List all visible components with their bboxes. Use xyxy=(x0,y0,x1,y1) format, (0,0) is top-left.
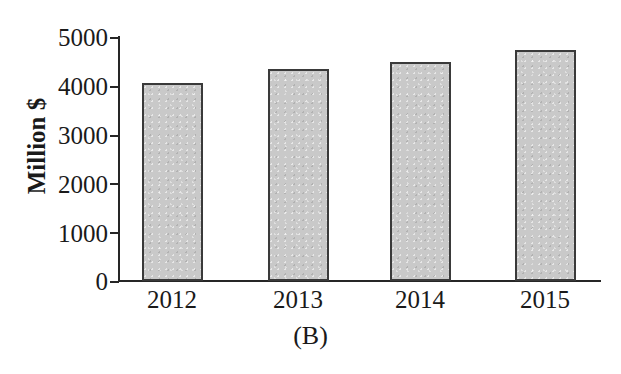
bar-chart-figure: Million $ 5000 4000 3000 2000 1000 0 201… xyxy=(0,0,621,374)
bar-2014 xyxy=(390,62,451,281)
bar-2012 xyxy=(142,83,203,281)
bar-2015 xyxy=(515,50,576,281)
x-tick-label-2013: 2013 xyxy=(238,286,358,313)
x-tick-label-2012: 2012 xyxy=(112,286,232,313)
y-tick-label-2000: 2000 xyxy=(44,172,108,197)
x-tick-label-2015: 2015 xyxy=(485,286,605,313)
y-tick-label-4000: 4000 xyxy=(44,74,108,99)
y-tick-label-0: 0 xyxy=(44,269,108,294)
y-tick-label-1000: 1000 xyxy=(44,221,108,246)
x-tick-label-2014: 2014 xyxy=(360,286,480,313)
bar-2013 xyxy=(268,69,329,281)
plot-area xyxy=(119,37,600,281)
figure-caption: (B) xyxy=(0,322,621,350)
y-tick-label-5000: 5000 xyxy=(44,25,108,50)
y-tick-label-3000: 3000 xyxy=(44,123,108,148)
